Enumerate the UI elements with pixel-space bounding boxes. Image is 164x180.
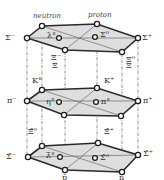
node-eta-zero [57,100,62,105]
node-anti-xi-plus [95,140,100,145]
node-sigma-zero [93,35,98,40]
label-anti-proton: p̄ [62,173,67,180]
node-k-plus [94,85,99,90]
label-pi-plus: π⁺ [143,96,152,105]
node-anti-sigma-zero [93,156,98,161]
label-eta-zero: η° [46,97,55,106]
label-sigma-plus: Σ⁺ [142,33,152,42]
node-anti-xi-zero [39,143,44,148]
node-pi-plus [135,98,140,103]
label-pi-minus: π⁻ [7,96,16,105]
label-anti-xi-plus: Ξ̄⁺ [104,127,114,136]
node-anti-lambda-zero [58,155,63,160]
baryon-octet-layer: neutron proton Σ⁻ Σ⁺ λ° Σ⁰ Ξ⁻ Ξ⁰ [5,11,152,64]
label-anti-sigma-minus: Σ̄⁻ [6,152,16,161]
label-anti-sigma-zero: Σ̄⁰ [100,153,109,162]
node-pi-minus [24,98,29,103]
label-k-plus: K⁺ [104,76,114,85]
node-neutron [39,23,44,28]
label-anti-neutron: n̄ [119,173,124,180]
node-sigma-plus [135,35,140,40]
eightfold-way-diagram: neutron proton Σ⁻ Σ⁺ λ° Σ⁰ Ξ⁻ Ξ⁰ π⁻ π⁺ K… [0,0,164,180]
node-xi-zero [119,49,124,54]
node-proton [94,21,99,26]
label-xi-bar-right: Ξ [126,61,132,70]
node-pi-zero [94,100,99,105]
label-anti-xi-zero: Ξ̄⁰ [28,127,37,136]
label-sigma-minus: Σ⁻ [5,33,15,42]
node-k-zero [39,87,44,92]
label-anti-lambda-zero: λ̄° [46,151,55,160]
node-anti-proton [62,167,67,172]
antibaryon-octet-layer: Σ̄⁻ Σ̄⁺ Ξ̄⁰ Ξ̄⁺ λ̄° Σ̄⁰ p̄ n̄ [6,127,153,180]
label-xi-bar-left: Ξ [52,61,58,70]
node-anti-sigma-minus [25,154,30,159]
label-k-zero: K° [32,76,42,85]
node-k-zero-bar [118,113,123,118]
caption-proton: proton [88,11,112,19]
label-anti-sigma-plus: Σ̄⁺ [143,149,153,158]
label-lambda-zero: λ° [47,31,56,40]
node-anti-sigma-plus [135,152,140,157]
caption-neutron: neutron [33,12,62,20]
label-pi-zero: π° [101,97,110,106]
meson-octet-layer: π⁻ π⁺ K° K⁺ η° π° Ξ Ξ [7,61,152,119]
node-lambda-zero [57,36,62,41]
label-sigma-zero: Σ⁰ [100,30,109,39]
node-k-minus [61,112,66,117]
node-xi-minus [62,47,67,52]
node-sigma-minus [24,35,29,40]
